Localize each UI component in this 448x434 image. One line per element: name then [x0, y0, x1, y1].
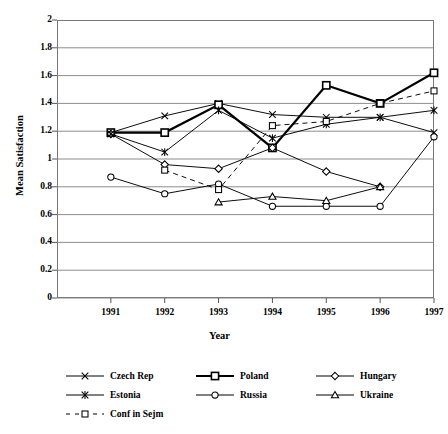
- square-marker-icon: [431, 88, 437, 94]
- series-hungary: [107, 130, 384, 190]
- legend-item-hungary[interactable]: Hungary: [312, 366, 422, 385]
- circle-marker-icon: [377, 203, 383, 209]
- legend-row: EstoniaRussiaUkraine: [62, 385, 422, 404]
- circle-marker-icon: [323, 203, 329, 209]
- x-axis-title: Year: [0, 330, 439, 341]
- legend-label: Conf in Sejm: [108, 409, 163, 419]
- x-tick-label: 1997: [404, 307, 448, 317]
- diamond-marker-icon: [331, 372, 338, 379]
- legend-item-russia[interactable]: Russia: [192, 385, 312, 404]
- square-marker-icon: [62, 407, 108, 421]
- legend-item-czech-rep[interactable]: Czech Rep: [62, 366, 192, 385]
- legend-label: Czech Rep: [108, 371, 154, 381]
- x-tick-label: 1991: [81, 307, 141, 317]
- legend-item-poland[interactable]: Poland: [192, 366, 312, 385]
- diamond-marker-icon: [312, 369, 358, 383]
- triangle-marker-icon: [269, 193, 276, 199]
- asterisk-marker-icon: [215, 106, 222, 114]
- x-tick-label: 1994: [242, 307, 302, 317]
- series-czech-rep: [108, 100, 438, 136]
- square-marker-icon: [323, 82, 330, 89]
- x-tick-label: 1993: [189, 307, 249, 317]
- legend-item-estonia[interactable]: Estonia: [62, 385, 192, 404]
- gridlines: [57, 48, 434, 298]
- circle-marker-icon: [192, 388, 238, 402]
- asterisk-marker-icon: [62, 388, 108, 402]
- x-tick-label: 1995: [296, 307, 356, 317]
- legend-label: Russia: [238, 390, 267, 400]
- legend-item-conf-in-sejm[interactable]: Conf in Sejm: [62, 404, 192, 423]
- diamond-marker-icon: [215, 165, 222, 172]
- legend-label: Hungary: [358, 371, 396, 381]
- square-marker-icon: [269, 123, 275, 129]
- square-marker-icon: [192, 369, 238, 383]
- circle-marker-icon: [269, 203, 275, 209]
- legend-row: Czech RepPolandHungary: [62, 366, 422, 385]
- square-marker-icon: [82, 411, 88, 417]
- square-marker-icon: [161, 129, 168, 136]
- legend-row: Conf in Sejm: [62, 404, 422, 423]
- circle-marker-icon: [431, 134, 437, 140]
- legend-label: Estonia: [108, 390, 141, 400]
- x-tick-label: 1992: [135, 307, 195, 317]
- square-marker-icon: [211, 372, 218, 379]
- legend-label: Poland: [238, 371, 269, 381]
- asterisk-marker-icon: [269, 134, 276, 142]
- square-marker-icon: [430, 69, 437, 76]
- circle-marker-icon: [108, 174, 114, 180]
- asterisk-marker-icon: [161, 148, 168, 156]
- circle-marker-icon: [212, 391, 218, 397]
- x-tick-label: 1996: [350, 307, 410, 317]
- square-marker-icon: [216, 187, 222, 193]
- x-marker-icon: [62, 369, 108, 383]
- legend-label: Ukraine: [358, 390, 393, 400]
- x-marker-icon: [161, 113, 168, 120]
- chart-legend: Czech RepPolandHungaryEstoniaRussiaUkrai…: [62, 366, 422, 423]
- circle-marker-icon: [162, 191, 168, 197]
- triangle-marker-icon: [312, 388, 358, 402]
- square-marker-icon: [323, 118, 329, 124]
- square-marker-icon: [162, 167, 168, 173]
- square-marker-icon: [377, 100, 383, 106]
- diamond-marker-icon: [323, 168, 330, 175]
- axis-tick-marks: [52, 20, 434, 303]
- legend-item-ukraine[interactable]: Ukraine: [312, 385, 422, 404]
